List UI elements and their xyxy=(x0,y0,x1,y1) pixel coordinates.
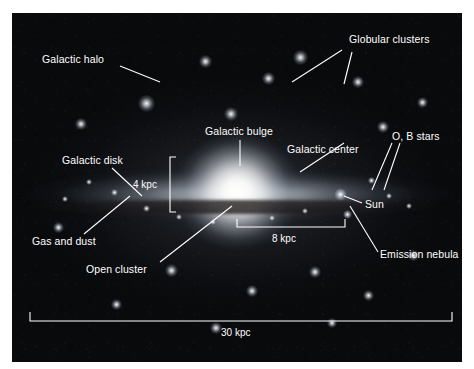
label-globular-clusters: Globular clusters xyxy=(349,34,429,45)
label-galactic-center: Galactic center xyxy=(287,144,359,155)
scale-bracket-4kpc xyxy=(170,157,176,212)
label-galactic-disk: Galactic disk xyxy=(62,155,123,166)
leader-ob-star-a xyxy=(372,143,392,190)
galaxy-figure: Galactic halo Globular clusters Galactic… xyxy=(0,0,474,369)
label-galactic-bulge: Galactic bulge xyxy=(205,126,273,137)
label-gas-and-dust: Gas and dust xyxy=(32,236,96,247)
label-galactic-halo: Galactic halo xyxy=(42,54,104,65)
leader-globular-cluster-b xyxy=(344,52,352,84)
leader-emission-nebula xyxy=(350,206,378,252)
scale-bracket-8kpc xyxy=(237,219,345,227)
scale-label-8kpc: 8 kpc xyxy=(272,233,296,244)
scale-label-4kpc: 4 kpc xyxy=(133,179,157,190)
leader-sun xyxy=(344,196,362,203)
leader-globular-cluster-a xyxy=(292,50,342,82)
leader-ob-star-b xyxy=(384,143,400,190)
leader-open-cluster xyxy=(160,206,232,262)
leader-gas-and-dust xyxy=(84,196,130,234)
label-sun: Sun xyxy=(365,199,384,210)
scale-label-30kpc: 30 kpc xyxy=(221,327,250,338)
label-open-cluster: Open cluster xyxy=(86,264,147,275)
scale-bracket-30kpc xyxy=(30,312,452,321)
label-emission-nebula: Emission nebula xyxy=(380,249,459,260)
label-ob-stars: O, B stars xyxy=(392,131,440,142)
leader-galactic-halo xyxy=(120,66,160,82)
